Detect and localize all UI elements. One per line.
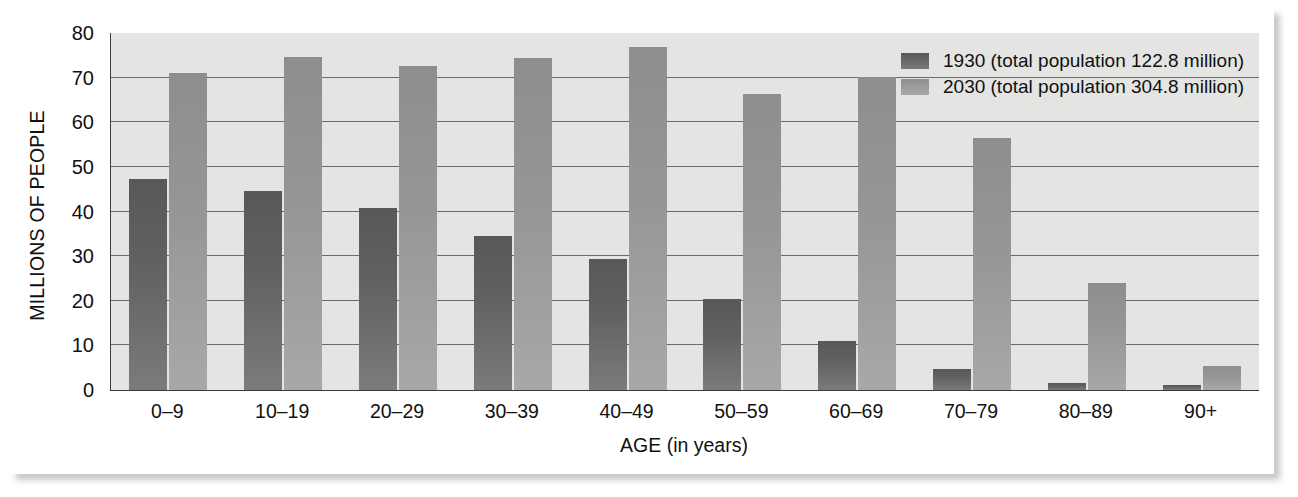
legend-item-1930: 1930 (total population 122.8 million) [901,48,1244,73]
legend-swatch-1930 [901,53,929,69]
y-tick-label: 30 [32,245,94,268]
x-tick-label: 70–79 [944,400,998,423]
x-tick-label: 10–19 [255,400,309,423]
legend-label-2030: 2030 (total population 304.8 million) [943,76,1244,98]
screenshot-root: MILLIONS OF PEOPLE 01020304050607080 0–9… [0,0,1298,497]
x-tick-label: 40–49 [599,400,653,423]
x-tick-label: 30–39 [485,400,539,423]
chart-legend: 1930 (total population 122.8 million) 20… [901,48,1244,100]
x-axis-title: AGE (in years) [110,434,1258,457]
figure-card: MILLIONS OF PEOPLE 01020304050607080 0–9… [6,4,1274,474]
grouped-bar-chart: MILLIONS OF PEOPLE 01020304050607080 0–9… [6,4,1274,474]
x-tick-label: 60–69 [829,400,883,423]
x-tick-label: 90+ [1184,400,1217,423]
y-tick-label: 70 [32,66,94,89]
x-tick-label: 80–89 [1059,400,1113,423]
legend-label-1930: 1930 (total population 122.8 million) [943,50,1244,72]
legend-item-2030: 2030 (total population 304.8 million) [901,74,1244,99]
y-tick-label: 10 [32,334,94,357]
y-tick-label: 20 [32,289,94,312]
y-tick-label: 60 [32,111,94,134]
y-tick-label: 40 [32,200,94,223]
y-tick-label: 80 [32,22,94,45]
x-axis-ticks: 0–910–1920–2930–3940–4950–5960–6970–7980… [110,400,1258,430]
x-tick-label: 50–59 [714,400,768,423]
y-tick-label: 50 [32,155,94,178]
legend-swatch-2030 [901,79,929,95]
y-tick-label: 0 [32,379,94,402]
x-tick-label: 0–9 [151,400,184,423]
x-tick-label: 20–29 [370,400,424,423]
